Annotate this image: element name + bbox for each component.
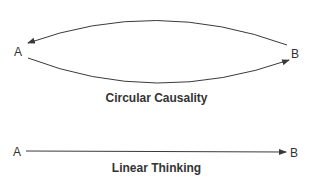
circular-caption: Circular Causality bbox=[0, 91, 313, 105]
linear-node-b: B bbox=[290, 147, 298, 159]
circular-node-a: A bbox=[14, 46, 22, 58]
arrow-a-to-b bbox=[28, 58, 289, 83]
linear-node-a: A bbox=[13, 146, 21, 158]
circular-node-b: B bbox=[291, 48, 299, 60]
linear-caption: Linear Thinking bbox=[0, 161, 313, 175]
arrow-b-to-a bbox=[28, 20, 287, 45]
linear-arrow bbox=[26, 151, 286, 152]
